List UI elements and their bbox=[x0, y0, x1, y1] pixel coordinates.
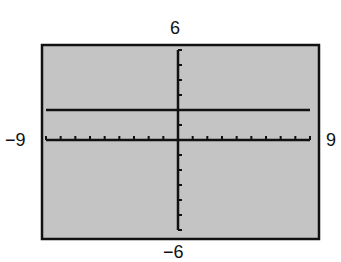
graph-screen-background bbox=[42, 45, 319, 239]
calculator-graph-screen bbox=[0, 0, 341, 262]
